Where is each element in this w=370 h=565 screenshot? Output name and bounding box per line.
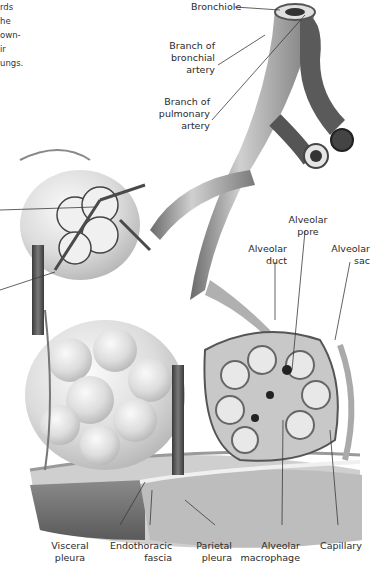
label-alveolar-macrophage: Alveolar macrophage — [240, 540, 300, 564]
label-line: artery — [160, 64, 215, 76]
label-endothoracic-fascia: Endothoracic fascia — [110, 540, 172, 564]
label-line: Parietal — [190, 540, 232, 552]
label-line: pleura — [190, 552, 232, 564]
chest-wall — [30, 452, 362, 548]
label-line: Branch of — [160, 40, 215, 52]
label-line: Branch of — [150, 96, 210, 108]
label-line: fascia — [110, 552, 172, 564]
label-line: Endothoracic — [110, 540, 172, 552]
label-line: macrophage — [240, 552, 300, 564]
label-line: artery — [150, 120, 210, 132]
label-line: bronchial — [160, 52, 215, 64]
label-alveolar-duct: Alveolar duct — [245, 243, 287, 267]
label-branch-of-pulmonary-artery: Branch of pulmonary artery — [150, 96, 210, 132]
label-line: pulmonary — [150, 108, 210, 120]
label-line: pleura — [40, 552, 100, 564]
label-line: Alveolar — [240, 540, 300, 552]
label-line: Visceral — [40, 540, 100, 552]
label-line: Alveolar — [324, 243, 370, 255]
label-line: pore — [283, 226, 333, 238]
label-visceral-pleura: Visceral pleura — [40, 540, 100, 564]
lung-alveoli-illustration — [0, 0, 370, 565]
label-line: Alveolar — [245, 243, 287, 255]
label-line: sac — [324, 255, 370, 267]
label-line: duct — [245, 255, 287, 267]
label-alveolar-sac: Alveolar sac — [324, 243, 370, 267]
label-branch-of-bronchial-artery: Branch of bronchial artery — [160, 40, 215, 76]
label-capillary: Capillary — [320, 540, 362, 552]
upper-alveolar-cluster — [20, 150, 150, 335]
label-alveolar-pore: Alveolar pore — [283, 214, 333, 238]
lower-alveolar-cluster — [25, 310, 185, 475]
alveolar-sac-cross-section — [204, 332, 351, 461]
label-line: Alveolar — [283, 214, 333, 226]
label-bronchiole: Bronchiole — [191, 1, 241, 13]
label-parietal-pleura: Parietal pleura — [190, 540, 232, 564]
